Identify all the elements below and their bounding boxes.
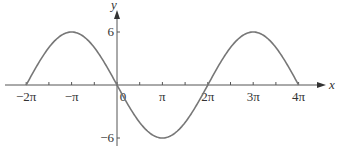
y-tick-label: −6 xyxy=(100,130,114,145)
sine-chart: −2π−π0π2π3π4π 6−6 x y xyxy=(0,0,337,146)
y-axis-label: y xyxy=(109,0,117,12)
x-tick-label: −π xyxy=(65,89,79,104)
x-tick-label: π xyxy=(159,89,166,104)
x-axis-arrow-icon xyxy=(317,82,326,88)
x-tick-label: 4π xyxy=(292,89,306,104)
y-tick-label: 6 xyxy=(108,24,115,39)
x-tick-label: 2π xyxy=(201,89,215,104)
x-axis-label: x xyxy=(328,77,335,92)
x-tick-label: 3π xyxy=(247,89,261,104)
x-tick-label: −2π xyxy=(16,89,37,104)
